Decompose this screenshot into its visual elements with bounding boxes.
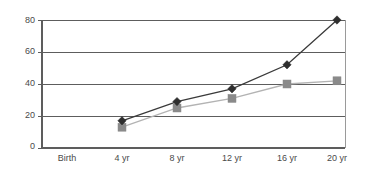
- x-axis-labels: Birth 4 yr 8 yr 12 yr 16 yr 20 yr: [58, 153, 347, 163]
- x-label-16yr: 16 yr: [277, 153, 297, 163]
- y-label-20: 20: [25, 110, 35, 120]
- y-label-0: 0: [30, 141, 35, 151]
- chart-canvas: 80 60 40 20 0 Birth 4 yr 8 yr 12 yr 16 y…: [0, 0, 368, 182]
- y-label-80: 80: [25, 15, 35, 25]
- y-label-60: 60: [25, 46, 35, 56]
- y-label-40: 40: [25, 78, 35, 88]
- y-axis-labels: 80 60 40 20 0: [25, 15, 35, 151]
- light-square-series-marker-20-yr: [333, 77, 341, 85]
- x-label-20yr: 20 yr: [327, 153, 347, 163]
- light-square-series-marker-16-yr: [283, 80, 291, 88]
- x-label-8yr: 8 yr: [169, 153, 184, 163]
- x-label-4yr: 4 yr: [114, 153, 129, 163]
- x-label-birth: Birth: [58, 153, 77, 163]
- light-square-series-marker-12-yr: [228, 94, 236, 102]
- x-label-12yr: 12 yr: [222, 153, 242, 163]
- line-chart: 80 60 40 20 0 Birth 4 yr 8 yr 12 yr 16 y…: [0, 0, 368, 182]
